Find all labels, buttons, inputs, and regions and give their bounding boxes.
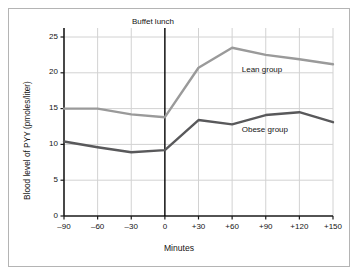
y-tick-label: 25 (36, 32, 58, 41)
x-tick-label: +60 (215, 222, 249, 231)
x-tick-label: +30 (182, 222, 216, 231)
x-tick-label: 0 (148, 222, 182, 231)
series-label-obese-group: Obese group (242, 125, 288, 134)
x-tick-label: +90 (249, 222, 283, 231)
x-tick-label: –30 (114, 222, 148, 231)
y-tick-label: 15 (36, 103, 58, 112)
x-tick-label: +150 (316, 222, 350, 231)
x-tick-label: +120 (282, 222, 316, 231)
x-tick-label: –90 (47, 222, 81, 231)
y-tick-label: 20 (36, 67, 58, 76)
y-axis-title: Blood level of PYY (pmoles/liter) (22, 81, 32, 200)
x-axis-title: Minutes (0, 243, 358, 253)
y-tick-label: 5 (36, 175, 58, 184)
series-label-lean-group: Lean group (242, 65, 282, 74)
chart-canvas (0, 0, 358, 275)
x-tick-label: –60 (81, 222, 115, 231)
figure: Blood level of PYY (pmoles/liter) Minute… (0, 0, 358, 275)
y-tick-label: 10 (36, 139, 58, 148)
y-tick-label: 0 (36, 211, 58, 220)
annotation-label-buffet-lunch: Buffet lunch (132, 17, 174, 26)
